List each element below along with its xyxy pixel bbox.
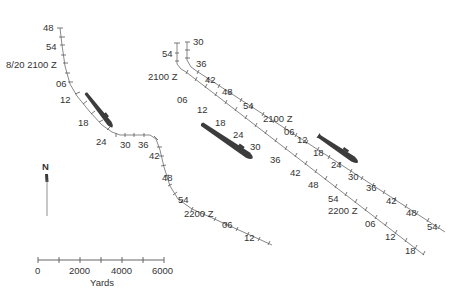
scale-bar: 0 2000 4000 6000 Yards	[35, 257, 173, 288]
time-label: 06	[177, 94, 188, 105]
time-label: 06	[56, 78, 67, 89]
time-label: 12	[244, 232, 255, 243]
time-label: 42	[290, 167, 301, 178]
time-label: 18	[405, 245, 416, 256]
time-label: 2100 Z	[263, 113, 293, 124]
scale-label: 0	[35, 265, 40, 276]
time-label: 18	[78, 117, 89, 128]
time-label: 42	[386, 195, 397, 206]
time-label: 24	[233, 129, 244, 140]
time-label: 12	[60, 94, 71, 105]
time-label: 06	[284, 126, 295, 137]
time-label: 42	[205, 74, 216, 85]
time-label: 54	[46, 41, 57, 52]
time-label: 30	[348, 171, 359, 182]
time-label: 18	[215, 117, 226, 128]
track-east-inner-line	[187, 42, 445, 232]
time-label: 12	[297, 134, 308, 145]
time-label: 12	[385, 231, 396, 242]
time-label: 30	[120, 139, 131, 150]
time-label: 24	[96, 136, 107, 147]
north-arrow: N	[42, 161, 49, 216]
time-label: 06	[222, 219, 233, 230]
time-label: 48	[308, 179, 319, 190]
time-label: 2200 Z	[184, 208, 214, 219]
time-label: 42	[149, 150, 160, 161]
time-label: 12	[197, 104, 208, 115]
scale-label: 4000	[111, 265, 132, 276]
time-label: 48	[43, 22, 54, 33]
time-label: 8/20 2100 Z	[6, 59, 57, 70]
vessel-center	[200, 120, 256, 161]
time-label: 54	[427, 221, 438, 232]
track-east-inner: 30 36 42 48 54 2100 Z 06 12 18 24 30 36 …	[185, 36, 445, 232]
north-label: N	[42, 161, 49, 172]
time-label: 54	[178, 194, 189, 205]
time-label: 24	[331, 159, 342, 170]
time-label: 36	[270, 154, 281, 165]
time-label: 48	[162, 172, 173, 183]
scale-label: 6000	[152, 265, 173, 276]
track-east-outer: 54 2100 Z 06 12 18 24 30 36 42 48 54 220…	[148, 43, 425, 256]
time-label: 36	[196, 58, 207, 69]
time-label: 06	[365, 218, 376, 229]
time-label: 36	[366, 182, 377, 193]
time-label: 54	[162, 48, 173, 59]
time-label: 54	[328, 193, 339, 204]
time-label: 36	[138, 139, 149, 150]
time-label: 54	[243, 100, 254, 111]
time-label: 30	[193, 36, 204, 47]
scale-unit-label: Yards	[90, 277, 114, 288]
time-label: 18	[313, 147, 324, 158]
track-east-outer-labels: 54 2100 Z 06 12 18 24 30 36 42 48 54 220…	[148, 48, 416, 256]
time-label: 48	[406, 207, 417, 218]
track-chart: 48 54 8/20 2100 Z 06 12 18 24 30 36 42 4…	[0, 0, 457, 297]
time-label: 2100 Z	[148, 71, 178, 82]
time-label: 30	[250, 141, 261, 152]
track-east-inner-labels: 30 36 42 48 54 2100 Z 06 12 18 24 30 36 …	[193, 36, 438, 232]
scale-label: 2000	[69, 265, 90, 276]
submarine-icon	[200, 121, 255, 161]
time-label: 2200 Z	[328, 205, 358, 216]
time-label: 48	[222, 86, 233, 97]
